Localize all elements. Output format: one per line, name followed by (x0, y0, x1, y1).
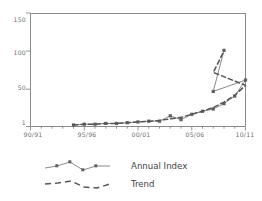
legend-label-annual-index: Annual Index (131, 161, 187, 171)
chart-container: 150 100 50 1 90/91 95/96 00/01 05/06 10/… (0, 0, 262, 201)
x-tick-label-10-11: 10/11 (228, 131, 262, 138)
y-tick-label-50: 50 (0, 84, 26, 91)
y-tick-label-150: 150 (0, 16, 26, 23)
x-tick-label-00-01: 00/01 (124, 131, 158, 138)
y-tick-label-1: 1 (0, 119, 26, 126)
y-tick-label-100: 100 (0, 49, 26, 56)
x-tick-label-05-06: 05/06 (178, 131, 212, 138)
legend-label-trend: Trend (131, 179, 155, 189)
x-tick-label-90-91: 90/91 (16, 131, 50, 138)
x-tick-label-95-96: 95/96 (70, 131, 104, 138)
